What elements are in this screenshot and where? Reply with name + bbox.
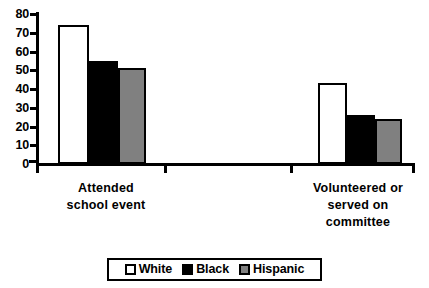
legend-item-hispanic: Hispanic: [239, 263, 304, 276]
chart-legend: White Black Hispanic: [107, 258, 322, 281]
bars-layer: [0, 0, 429, 164]
legend-item-black: Black: [182, 263, 229, 276]
category-2-line-2: served on: [288, 197, 428, 214]
legend-swatch-white-icon: [125, 264, 136, 275]
category-2-line-3: committee: [288, 214, 428, 231]
bar-attended-black: [89, 61, 118, 164]
x-axis-category-tick-2: [290, 166, 293, 173]
x-category-label-attended-school-event: Attended school event: [36, 180, 176, 214]
bar-attended-hispanic: [118, 68, 146, 164]
x-axis-line: [36, 163, 415, 166]
bar-attended-white: [58, 25, 89, 164]
bar-volunteered-hispanic: [375, 119, 402, 164]
legend-item-white: White: [125, 263, 173, 276]
x-axis-category-tick-1: [164, 166, 167, 173]
bar-chart: 80 70 60 50 40 30 20 10 0: [0, 0, 429, 288]
legend-swatch-black-icon: [182, 264, 193, 275]
x-axis-end-cap: [412, 166, 415, 173]
x-category-label-volunteered-served-on-committee: Volunteered or served on committee: [288, 180, 428, 231]
plot-area: 80 70 60 50 40 30 20 10 0: [0, 0, 429, 180]
bar-volunteered-white: [318, 83, 347, 164]
category-1-line-1: Attended: [36, 180, 176, 197]
category-1-line-2: school event: [36, 197, 176, 214]
legend-label-white: White: [139, 263, 173, 276]
x-axis-start-cap: [36, 166, 39, 173]
bar-volunteered-black: [347, 115, 375, 164]
category-2-line-1: Volunteered or: [288, 180, 428, 197]
legend-swatch-hispanic-icon: [239, 264, 250, 275]
legend-label-black: Black: [196, 263, 229, 276]
legend-label-hispanic: Hispanic: [253, 263, 304, 276]
